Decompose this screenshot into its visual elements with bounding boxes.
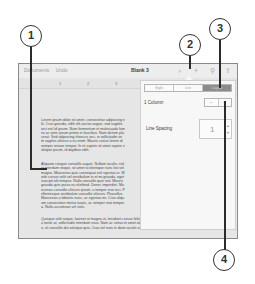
- callout-3-line: [219, 40, 221, 88]
- format-popover: Style List Layout 1 Column − + Line Spac…: [140, 80, 236, 230]
- document-title: Blank 3: [131, 67, 149, 73]
- wrench-icon[interactable]: ⚲: [209, 66, 215, 75]
- line-spacing-stepper[interactable]: 1 ▴▾: [199, 119, 232, 139]
- callout-1-line: [30, 168, 47, 170]
- documents-button[interactable]: Documents: [24, 67, 49, 73]
- callout-1-line: [30, 46, 32, 169]
- document-paragraph[interactable]: Aliquam congue convallis augue. Nullam i…: [41, 162, 125, 213]
- line-spacing-arrows-icon[interactable]: ▴▾: [227, 122, 229, 136]
- columns-stepper: − +: [204, 98, 232, 107]
- tab-style[interactable]: Style: [145, 85, 174, 91]
- columns-label: 1 Column: [144, 100, 163, 105]
- ruler-mark: 1: [59, 81, 61, 86]
- callout-3: 3: [209, 18, 231, 40]
- callout-1: 1: [20, 25, 42, 47]
- ruler-mark: 3: [115, 81, 117, 86]
- tab-list[interactable]: List: [174, 85, 203, 91]
- ruler-mark: 2: [87, 81, 89, 86]
- share-icon[interactable]: ⇧: [225, 66, 231, 75]
- toolbar-icons: ⌕ + ⚲ ⇧: [177, 66, 231, 75]
- undo-button[interactable]: Undo: [56, 67, 68, 73]
- callout-4-line: [224, 101, 226, 250]
- callout-2-line: [189, 55, 191, 69]
- line-spacing-label: Line Spacing: [146, 126, 172, 131]
- columns-decrement-button[interactable]: −: [205, 99, 219, 106]
- line-spacing-value: 1: [210, 125, 214, 134]
- format-brush-icon[interactable]: ⌕: [177, 66, 183, 75]
- toolbar: Documents Undo Blank 3 ⌕ + ⚲ ⇧: [19, 64, 237, 79]
- plus-icon[interactable]: +: [193, 66, 199, 75]
- document-paragraph[interactable]: Lorem ipsum dolor sit amet, consectetur …: [41, 118, 125, 156]
- callout-2: 2: [179, 34, 201, 56]
- callout-4: 4: [213, 249, 235, 271]
- tab-layout[interactable]: Layout: [203, 85, 231, 91]
